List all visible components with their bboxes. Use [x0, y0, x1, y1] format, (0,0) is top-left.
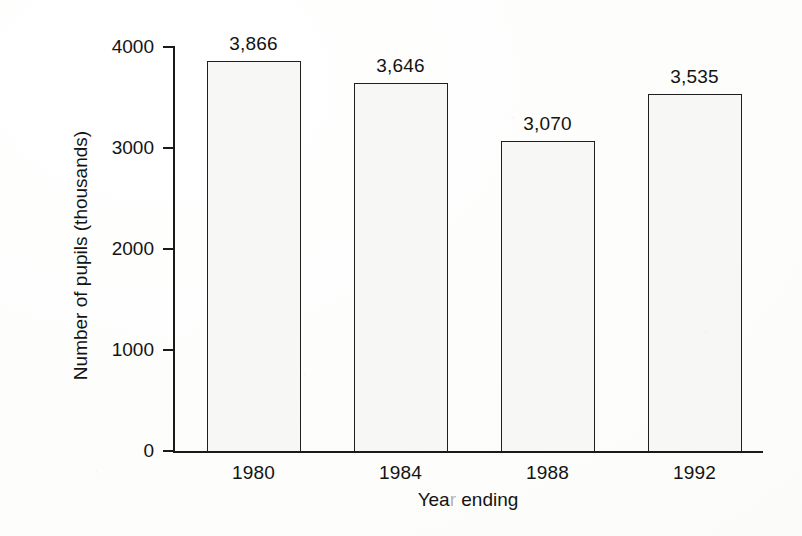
bar-value-label: 3,535 [618, 67, 772, 86]
x-axis-title-part-2: ending [456, 489, 518, 510]
bar[interactable] [354, 83, 448, 451]
bar-chart-figure: 01000200030004000 3,86619803,64619843,07… [0, 0, 802, 536]
bar[interactable] [501, 141, 595, 451]
y-axis-tick [163, 46, 175, 48]
bar[interactable] [207, 61, 301, 451]
y-axis-tick-label: 1000 [86, 340, 154, 359]
bar-value-label: 3,866 [177, 34, 331, 53]
x-axis-title: Year ending [173, 489, 763, 510]
y-axis-line [173, 47, 175, 453]
x-axis-category-label: 1992 [618, 463, 772, 482]
y-axis-tick [163, 248, 175, 250]
bar-value-label: 3,070 [471, 114, 625, 133]
x-axis-line [173, 451, 763, 453]
y-axis-tick-label: 3000 [86, 138, 154, 157]
bar-value-label: 3,646 [324, 56, 478, 75]
x-axis-category-label: 1988 [471, 463, 625, 482]
y-axis-tick-label: 2000 [86, 239, 154, 258]
y-axis-tick [163, 349, 175, 351]
x-axis-category-label: 1980 [177, 463, 331, 482]
x-axis-title-part-1: Yea [418, 489, 450, 510]
y-axis-tick [163, 450, 175, 452]
x-axis-category-label: 1984 [324, 463, 478, 482]
plot-area: 01000200030004000 3,86619803,64619843,07… [0, 0, 802, 536]
y-axis-tick-label: 0 [86, 441, 154, 460]
y-axis-title: Number of pupils (thousands) [70, 56, 91, 456]
y-axis-tick-label: 4000 [86, 37, 154, 56]
bar[interactable] [648, 94, 742, 451]
y-axis-tick [163, 147, 175, 149]
